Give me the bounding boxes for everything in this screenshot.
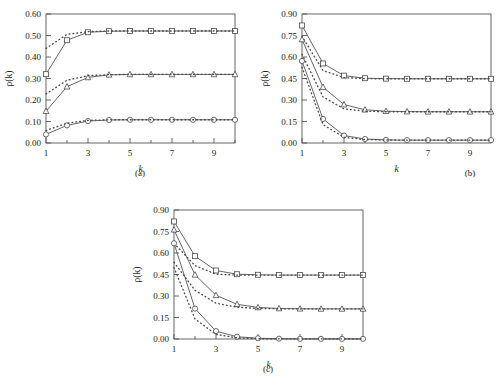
panel-a: 135790.000.100.200.300.400.500.60kρ(k) — [0, 0, 245, 175]
series-line-dotted — [302, 67, 491, 140]
series-line-dotted — [302, 54, 491, 111]
marker-triangle — [192, 272, 198, 277]
x-axis-title: k — [394, 164, 399, 174]
marker-square — [44, 72, 49, 77]
x-tick-label: 7 — [426, 148, 431, 158]
panel-a-caption: (a) — [110, 168, 170, 178]
x-tick-label: 7 — [170, 148, 175, 158]
y-tick-label: 0.60 — [25, 9, 41, 19]
series-line-dotted — [174, 243, 363, 275]
y-tick-label: 0.45 — [281, 74, 297, 84]
y-tick-label: 0.40 — [25, 52, 41, 62]
x-tick-label: 9 — [468, 148, 473, 158]
y-axis-title: ρ(k) — [4, 71, 15, 87]
marker-square — [193, 254, 198, 259]
marker-square — [86, 30, 91, 35]
x-tick-label: 5 — [384, 148, 389, 158]
marker-circle — [299, 58, 304, 63]
marker-square — [300, 23, 305, 28]
panel-b-plot: 135790.000.150.300.450.600.750.90kρ(k) — [256, 0, 501, 175]
marker-square — [321, 61, 326, 66]
series-line-solid — [174, 230, 363, 309]
x-tick-label: 9 — [212, 148, 217, 158]
y-tick-label: 0.90 — [153, 205, 169, 215]
panel-c-plot: 135790.000.150.300.450.600.750.90kρ(k) — [128, 196, 373, 371]
y-tick-label: 0.30 — [281, 95, 297, 105]
x-tick-label: 9 — [340, 344, 345, 354]
series-line-dotted — [46, 120, 235, 131]
y-tick-label: 0.10 — [25, 117, 41, 127]
x-tick-label: 3 — [214, 344, 219, 354]
marker-square — [214, 268, 219, 273]
series-line-solid — [46, 74, 235, 111]
figure-three-panel-rho-k: 135790.000.100.200.300.400.500.60kρ(k) (… — [0, 0, 501, 389]
x-tick-label: 1 — [44, 148, 49, 158]
series-line-solid — [46, 31, 235, 74]
x-tick-label: 3 — [86, 148, 91, 158]
y-tick-label: 0.00 — [25, 138, 41, 148]
y-tick-label: 0.15 — [281, 117, 297, 127]
marker-circle — [192, 306, 197, 311]
series-line-dotted — [46, 31, 235, 48]
y-tick-label: 0.75 — [281, 31, 297, 41]
x-tick-label: 1 — [172, 344, 177, 354]
marker-circle — [234, 334, 239, 339]
y-tick-label: 0.20 — [25, 95, 41, 105]
y-tick-label: 0.15 — [153, 313, 169, 323]
series-line-solid — [302, 25, 491, 78]
marker-triangle — [171, 227, 177, 232]
panel-a-plot: 135790.000.100.200.300.400.500.60kρ(k) — [0, 0, 245, 175]
panel-b: 135790.000.150.300.450.600.750.90kρ(k) — [256, 0, 501, 175]
y-tick-label: 0.60 — [153, 248, 169, 258]
marker-square — [235, 272, 240, 277]
series-line-solid — [174, 243, 363, 339]
marker-circle — [43, 132, 48, 137]
series-line-dotted — [46, 74, 235, 94]
marker-square — [172, 219, 177, 224]
marker-triangle — [64, 84, 70, 89]
x-tick-label: 5 — [128, 148, 133, 158]
panel-c-caption: (c) — [238, 364, 298, 374]
y-tick-label: 0.50 — [25, 31, 41, 41]
y-axis-title: ρ(k) — [260, 71, 271, 87]
panel-c: 135790.000.150.300.450.600.750.90kρ(k) — [128, 196, 373, 371]
y-tick-label: 0.30 — [153, 291, 169, 301]
marker-square — [65, 38, 70, 43]
x-tick-label: 1 — [300, 148, 305, 158]
series-line-solid — [174, 221, 363, 275]
series-line-dotted — [302, 36, 491, 79]
y-axis-title: ρ(k) — [132, 267, 143, 283]
marker-triangle — [320, 84, 326, 89]
x-tick-label: 3 — [342, 148, 347, 158]
panel-b-caption: (b) — [440, 168, 500, 178]
y-tick-label: 0.45 — [153, 270, 169, 280]
y-tick-label: 0.90 — [281, 9, 297, 19]
y-tick-label: 0.00 — [281, 138, 297, 148]
x-tick-label: 7 — [298, 344, 303, 354]
series-line-dotted — [174, 268, 363, 339]
marker-triangle — [234, 301, 240, 306]
x-tick-label: 5 — [256, 344, 261, 354]
series-line-solid — [46, 120, 235, 135]
y-tick-label: 0.30 — [25, 74, 41, 84]
marker-circle — [171, 241, 176, 246]
marker-triangle — [341, 101, 347, 106]
y-tick-label: 0.00 — [153, 334, 169, 344]
y-tick-label: 0.60 — [281, 52, 297, 62]
y-tick-label: 0.75 — [153, 227, 169, 237]
